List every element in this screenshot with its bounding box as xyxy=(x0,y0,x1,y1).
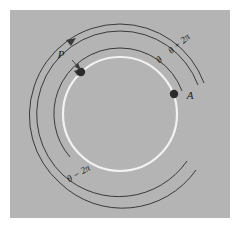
theta-arc xyxy=(54,48,182,157)
angle-branch-diagram: P A θ + 2π θ θ − 2π xyxy=(0,0,240,233)
point-p-dot xyxy=(77,68,85,76)
angle-theta-minus-2pi-label: θ − 2π xyxy=(65,162,92,184)
point-a-label: A xyxy=(186,89,194,101)
figure-root: P A θ + 2π θ θ − 2π xyxy=(0,0,240,233)
angle-theta-plus-2pi-label: θ + 2π xyxy=(166,31,192,55)
point-a-dot xyxy=(170,90,178,98)
point-p-label: P xyxy=(57,48,65,60)
